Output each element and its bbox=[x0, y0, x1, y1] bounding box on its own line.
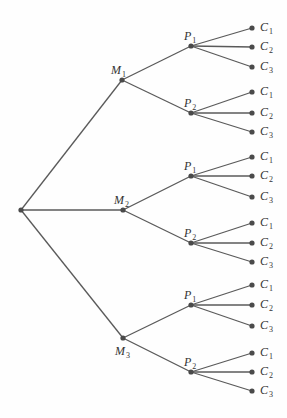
leaf-label: C1 bbox=[260, 85, 273, 100]
leaf-node bbox=[249, 350, 254, 355]
leaf-label: C2 bbox=[260, 40, 273, 55]
leaf-label: C3 bbox=[260, 125, 273, 140]
edge-leaf bbox=[191, 285, 252, 305]
node-m3 bbox=[120, 335, 125, 340]
edge-m2p2 bbox=[123, 210, 191, 243]
leaf-node bbox=[249, 259, 254, 264]
root-node bbox=[18, 207, 23, 212]
label-m2p2: P2 bbox=[184, 227, 196, 242]
edge-leaf bbox=[191, 243, 252, 262]
leaf-node bbox=[249, 64, 254, 69]
edge-root-m1 bbox=[21, 80, 122, 210]
leaf-node bbox=[249, 194, 254, 199]
edge-root-m3 bbox=[21, 210, 123, 338]
leaf-node bbox=[249, 129, 254, 134]
label-m3p2: P2 bbox=[184, 356, 196, 371]
leaf-node bbox=[249, 388, 254, 393]
leaf-label: C3 bbox=[260, 190, 273, 205]
leaf-node bbox=[249, 323, 254, 328]
label-m3p1: P1 bbox=[184, 289, 196, 304]
leaf-node bbox=[249, 173, 254, 178]
leaf-node bbox=[249, 154, 254, 159]
leaf-node bbox=[249, 25, 254, 30]
label-m3: M3 bbox=[115, 345, 130, 360]
edge-m3p2 bbox=[123, 338, 191, 372]
leaf-node bbox=[249, 369, 254, 374]
label-m2p1: P1 bbox=[184, 160, 196, 175]
leaf-node bbox=[249, 302, 254, 307]
edge-leaf bbox=[191, 176, 252, 197]
tree-diagram: M1M2M3P1P2P1P2P1P2C1C2C3C1C2C3C1C2C3C1C2… bbox=[0, 0, 287, 418]
leaf-label: C1 bbox=[260, 346, 273, 361]
edge-m1p2 bbox=[122, 80, 191, 113]
edge-leaf bbox=[191, 113, 252, 132]
leaf-node bbox=[249, 220, 254, 225]
edge-leaf bbox=[191, 305, 252, 326]
leaf-label: C2 bbox=[260, 169, 273, 184]
label-m1p2: P2 bbox=[184, 97, 196, 112]
leaf-node bbox=[249, 89, 254, 94]
edge-leaf bbox=[191, 46, 252, 67]
edge-leaf bbox=[191, 46, 252, 47]
leaf-label: C2 bbox=[260, 236, 273, 251]
leaf-node bbox=[249, 110, 254, 115]
leaf-label: C3 bbox=[260, 384, 273, 399]
leaf-node bbox=[249, 44, 254, 49]
label-m1: M1 bbox=[111, 64, 126, 79]
edge-leaf bbox=[191, 28, 252, 46]
edge-leaf bbox=[191, 157, 252, 176]
label-m2: M2 bbox=[114, 194, 129, 209]
edge-m2p1 bbox=[123, 176, 191, 210]
leaf-node bbox=[249, 282, 254, 287]
tree-edges bbox=[0, 0, 287, 418]
leaf-label: C2 bbox=[260, 106, 273, 121]
edge-leaf bbox=[191, 372, 252, 391]
edge-m1p1 bbox=[122, 46, 191, 80]
leaf-label: C3 bbox=[260, 60, 273, 75]
edge-leaf bbox=[191, 92, 252, 113]
label-m1p1: P1 bbox=[184, 30, 196, 45]
leaf-label: C2 bbox=[260, 365, 273, 380]
leaf-label: C1 bbox=[260, 278, 273, 293]
leaf-label: C3 bbox=[260, 319, 273, 334]
leaf-label: C1 bbox=[260, 150, 273, 165]
leaf-label: C3 bbox=[260, 255, 273, 270]
edge-m3p1 bbox=[123, 305, 191, 338]
leaf-label: C1 bbox=[260, 21, 273, 36]
edge-leaf bbox=[191, 353, 252, 372]
leaf-node bbox=[249, 240, 254, 245]
leaf-label: C1 bbox=[260, 216, 273, 231]
edge-leaf bbox=[191, 223, 252, 243]
leaf-label: C2 bbox=[260, 298, 273, 313]
